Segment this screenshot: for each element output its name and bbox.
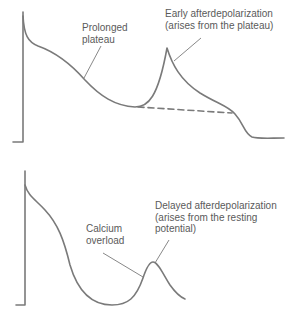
- prolonged-plateau-label: Prolonged plateau: [82, 22, 128, 45]
- dad-leader: [155, 240, 169, 263]
- calcium-overload-leader: [103, 253, 143, 277]
- label-line: (arises from the resting: [155, 212, 277, 224]
- early-afterdepolarization-label: Early afterdepolarization (arises from t…: [165, 8, 273, 31]
- calcium-overload-label: Calcium overload: [86, 223, 124, 246]
- prolonged-plateau-leader: [84, 46, 101, 78]
- label-line: plateau: [82, 34, 128, 46]
- delayed-afterdepolarization-label: Delayed afterdepolarization (arises from…: [155, 200, 277, 235]
- ead-leader: [174, 38, 201, 61]
- top-action-potential-trace: [13, 12, 284, 142]
- label-line: Delayed afterdepolarization: [155, 200, 277, 212]
- label-line: Calcium: [86, 223, 124, 235]
- action-potential-diagram: [0, 0, 288, 318]
- label-line: Early afterdepolarization: [165, 8, 273, 20]
- label-line: (arises from the plateau): [165, 20, 273, 32]
- label-line: potential): [155, 223, 277, 235]
- label-line: overload: [86, 235, 124, 247]
- label-line: Prolonged: [82, 22, 128, 34]
